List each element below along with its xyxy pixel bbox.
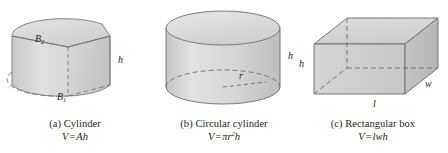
- figure-a-formula: V=Ah: [0, 131, 150, 143]
- figure-c-formula-equals: =: [365, 131, 373, 142]
- volume-formulas-figure: B2 B1 h (a) Cylinder V=Ah: [0, 0, 448, 153]
- figure-a-artwork: B2 B1 h: [0, 6, 150, 114]
- figure-b-radius-label: r: [239, 70, 243, 81]
- circular-cylinder-top-ellipse: [166, 11, 280, 45]
- figure-a-top-base-label: B2: [35, 33, 44, 44]
- figure-b-height-label: h: [288, 50, 293, 61]
- figure-c-caption-title: (c) Rectangular box: [298, 118, 448, 130]
- figure-cell-rectangular-box: h l w (c) Rectangular box V=lwh: [298, 0, 448, 153]
- figure-a-formula-rhs: Ah: [76, 131, 88, 142]
- figure-c-width-label: w: [425, 78, 432, 89]
- figure-a-bottom-base-label: B1: [57, 91, 66, 102]
- figure-c-artwork: h l w: [298, 6, 448, 114]
- figure-b-formula-h: h: [235, 131, 240, 142]
- figure-b-artwork: r h: [150, 6, 298, 114]
- figure-cell-cylinder: B2 B1 h (a) Cylinder V=Ah: [0, 0, 150, 153]
- figure-a-caption: (a) Cylinder V=Ah: [0, 118, 150, 144]
- cylinder-sector-svg: [0, 6, 150, 114]
- figure-b-formula: V=πr2h: [150, 131, 298, 143]
- circular-cylinder-svg: [150, 6, 298, 114]
- figure-a-caption-title: (a) Cylinder: [0, 118, 150, 130]
- figure-b-caption-title: (b) Circular cylinder: [150, 118, 298, 130]
- figure-c-length-label: l: [373, 98, 376, 109]
- figure-c-formula-rhs: lwh: [373, 131, 388, 142]
- figure-c-height-label: h: [299, 58, 304, 69]
- box-front-face: [314, 44, 405, 94]
- figure-c-formula-lhs: V: [358, 131, 364, 142]
- figure-c-caption: (c) Rectangular box V=lwh: [298, 118, 448, 144]
- figure-c-formula: V=lwh: [298, 131, 448, 143]
- figure-cell-circular-cylinder: r h (b) Circular cylinder V=πr2h: [150, 0, 298, 153]
- figure-b-caption: (b) Circular cylinder V=πr2h: [150, 118, 298, 144]
- figure-a-height-label: h: [118, 54, 123, 65]
